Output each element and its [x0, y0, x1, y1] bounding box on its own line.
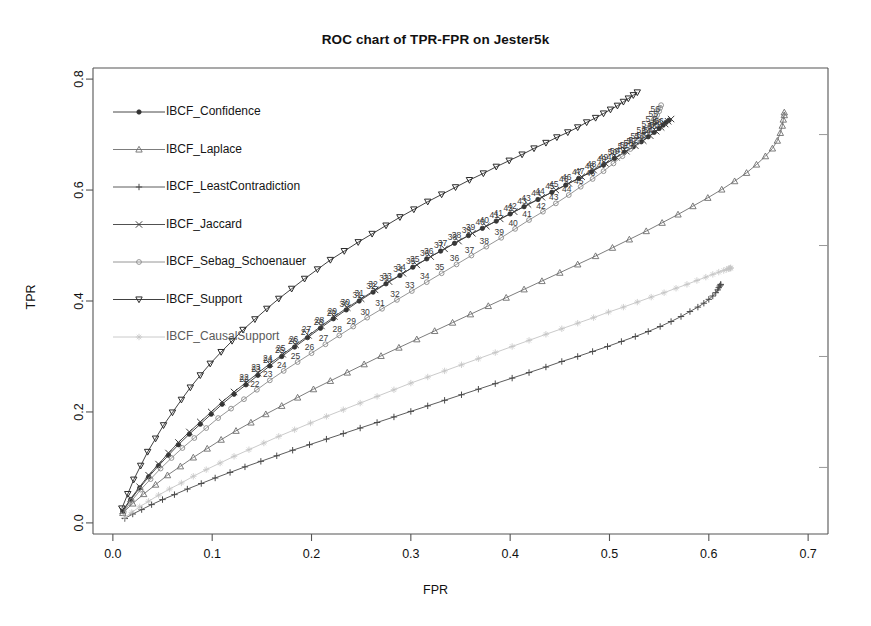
data-point: [661, 289, 667, 295]
point-index-label: 40: [508, 218, 518, 228]
point-index-label: 25: [276, 343, 286, 353]
data-point: [589, 348, 595, 354]
data-point: [408, 408, 414, 414]
point-index-label: 40: [480, 215, 490, 225]
data-point: [307, 420, 313, 426]
point-index-label: 23: [251, 362, 261, 372]
point-index-label: 44: [562, 184, 572, 194]
point-index-label: 34: [396, 262, 406, 272]
legend-entry-IBCF_Laplace[interactable]: [113, 146, 165, 152]
data-point: [184, 486, 190, 492]
data-point: [575, 353, 581, 359]
data-point: [458, 362, 464, 368]
y-tick-label: 0.8: [72, 70, 86, 87]
data-point: [458, 392, 464, 398]
point-index-label: 36: [424, 246, 434, 256]
point-index-label: 24: [277, 360, 287, 370]
data-point: [258, 458, 264, 464]
data-point: [190, 473, 196, 479]
legend-entry-IBCF_Confidence[interactable]: [113, 110, 165, 114]
data-point: [425, 374, 431, 380]
data-point: [590, 314, 596, 320]
data-point: [145, 498, 151, 504]
point-index-label: 33: [382, 271, 392, 281]
series-IBCF_LeastContradiction: [122, 281, 724, 522]
data-point: [559, 326, 565, 332]
data-point: [678, 313, 684, 319]
data-point: [227, 469, 233, 475]
data-point: [122, 514, 128, 520]
x-tick-label: 0.0: [104, 547, 121, 561]
point-index-label: 25: [291, 351, 301, 361]
point-index-label: 43: [521, 193, 531, 203]
data-point: [673, 285, 679, 291]
point-index-label: 45: [574, 176, 584, 186]
legend-entry-IBCF_Support[interactable]: [113, 297, 165, 303]
data-point: [687, 308, 693, 314]
data-point: [291, 427, 297, 433]
data-point: [703, 274, 709, 280]
point-index-label: 26: [305, 342, 315, 352]
point-index-label: 30: [360, 307, 370, 317]
plot-canvas: 0.00.10.20.30.40.50.60.70.00.20.40.60.8 …: [0, 0, 871, 626]
point-index-label: 44: [535, 186, 545, 196]
data-point: [543, 331, 549, 337]
data-point: [340, 430, 346, 436]
data-point: [526, 369, 532, 375]
x-axis-label: FPR: [0, 583, 871, 597]
x-tick-label: 0.1: [203, 547, 220, 561]
data-point: [716, 269, 722, 275]
point-index-label: 24: [263, 353, 273, 363]
data-point: [684, 281, 690, 287]
data-point: [374, 393, 380, 399]
data-point: [492, 349, 498, 355]
point-index-label: 35: [410, 254, 420, 264]
point-index-label: 34: [420, 271, 430, 281]
data-point: [242, 464, 248, 470]
legend-entry-IBCF_Jaccard[interactable]: [113, 221, 165, 227]
data-point: [137, 110, 141, 114]
data-point: [274, 453, 280, 459]
data-point: [668, 318, 674, 324]
legend-entry-IBCF_Sebag_Schoenauer[interactable]: [113, 260, 165, 265]
data-point: [136, 504, 142, 510]
data-point: [543, 364, 549, 370]
point-index-label: 29: [328, 306, 338, 316]
legend-layer: [113, 110, 165, 340]
legend-label-IBCF_CausalSupport: IBCF_CausalSupport: [166, 329, 279, 343]
point-index-label: 43: [549, 192, 559, 202]
data-point: [391, 414, 397, 420]
point-index-label: 35: [435, 262, 445, 272]
data-point: [374, 419, 380, 425]
roc-chart: ROC chart of TPR-FPR on Jester5k 0.00.10…: [0, 0, 871, 626]
data-point: [136, 184, 142, 190]
data-point: [475, 386, 481, 392]
data-point: [171, 491, 177, 497]
data-point: [694, 277, 700, 283]
data-point: [246, 446, 252, 452]
data-point: [575, 320, 581, 326]
point-index-label: 27: [319, 333, 329, 343]
point-index-label: 37: [438, 238, 448, 248]
y-axis-label: TPR: [24, 252, 38, 342]
point-index-label: 41: [522, 209, 532, 219]
point-index-label: 47: [597, 160, 607, 170]
point-index-label: 27: [302, 324, 312, 334]
legend-label-IBCF_Laplace: IBCF_Laplace: [166, 142, 242, 156]
legend-entry-IBCF_LeastContradiction[interactable]: [113, 184, 165, 190]
data-point: [441, 397, 447, 403]
point-index-label: 22: [250, 379, 260, 389]
point-index-label: 30: [341, 297, 351, 307]
x-tick-label: 0.4: [501, 547, 518, 561]
data-point: [618, 338, 624, 344]
data-point: [604, 343, 610, 349]
point-index-label: 41: [493, 208, 503, 218]
legend-label-IBCF_Confidence: IBCF_Confidence: [166, 104, 261, 118]
legend-entry-IBCF_CausalSupport[interactable]: [113, 334, 165, 340]
data-point: [231, 453, 237, 459]
data-point: [198, 480, 204, 486]
point-index-label: 28: [333, 324, 343, 334]
data-point: [391, 387, 397, 393]
data-point: [695, 304, 701, 310]
data-point: [166, 486, 172, 492]
